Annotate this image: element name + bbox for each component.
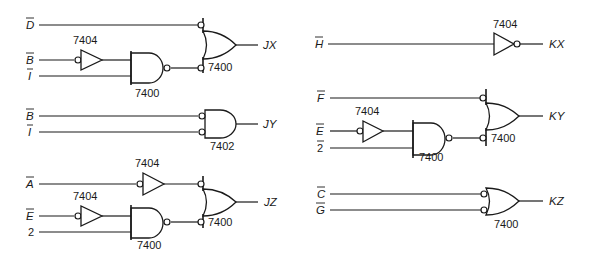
circuit-jx: D B I 7404 7400 — [26, 18, 278, 99]
output-label-ky: KY — [549, 110, 566, 122]
circuit-jz: A E 2 7404 7404 7400 — [25, 157, 278, 251]
input-label-e-bar: E — [26, 209, 34, 222]
svg-text:I: I — [28, 70, 32, 82]
circuit-kx: H 7404 KX — [315, 18, 566, 55]
output-label-jx: JX — [262, 39, 278, 51]
svg-text:7400: 7400 — [208, 216, 232, 228]
input-label-e-bar: E — [316, 124, 324, 137]
svg-text:7400: 7400 — [137, 239, 161, 251]
svg-text:7400: 7400 — [491, 132, 515, 144]
svg-text:I: I — [28, 126, 32, 138]
input-label-d-bar: D — [26, 18, 34, 31]
svg-text:2: 2 — [317, 142, 323, 154]
svg-text:7404: 7404 — [355, 105, 379, 117]
input-label-i-bar: I — [27, 69, 33, 82]
input-label-c-bar: C — [317, 187, 326, 200]
svg-text:G: G — [316, 204, 325, 216]
svg-text:H: H — [315, 38, 324, 50]
svg-text:7404: 7404 — [73, 34, 97, 46]
buffer-7404-e: 7404 — [73, 190, 102, 226]
buffer-7404: 7404 — [355, 105, 383, 142]
input-label-g-bar: G — [316, 203, 325, 216]
nand-gate-7400: 7400 — [131, 51, 170, 99]
or-gate-7400: 7400 — [198, 18, 236, 73]
svg-text:D: D — [26, 19, 34, 31]
input-label-b-bar: B — [26, 109, 34, 122]
input-label-a-bar: A — [25, 177, 34, 190]
svg-text:B: B — [26, 54, 34, 66]
svg-text:7402: 7402 — [210, 140, 234, 152]
or-gate-7400: 7400 — [198, 176, 236, 228]
svg-text:E: E — [26, 210, 34, 222]
circuit-kz: C G 7400 KZ — [316, 187, 565, 230]
buffer-7404: 7404 — [73, 34, 102, 70]
output-label-kx: KX — [549, 38, 566, 50]
input-label-h-bar: H — [315, 37, 324, 50]
input-label-i-bar: I — [27, 125, 33, 138]
inverter-7404: 7404 — [493, 18, 520, 55]
svg-text:C: C — [317, 188, 326, 200]
or-gate-7400: 7400 — [480, 89, 519, 146]
svg-text:7404: 7404 — [73, 190, 97, 202]
svg-text:E: E — [316, 125, 324, 137]
output-label-kz: KZ — [549, 195, 565, 207]
svg-text:7400: 7400 — [494, 218, 518, 230]
circuit-jy: B I 7402 JY — [26, 109, 278, 152]
svg-text:7404: 7404 — [493, 18, 517, 30]
output-label-jz: JZ — [263, 196, 278, 208]
input-label-2-bar: 2 — [317, 141, 324, 154]
input-label-2: 2 — [28, 226, 34, 238]
input-label-f-bar: F — [317, 91, 325, 104]
buffer-7404-a: 7404 — [135, 157, 164, 195]
or-gate-7400: 7400 — [481, 188, 519, 230]
svg-text:7400: 7400 — [208, 61, 232, 73]
nand-gate-7400: 7400 — [131, 205, 170, 251]
output-label-jy: JY — [262, 118, 278, 130]
svg-text:F: F — [317, 92, 325, 104]
logic-diagram: D B I 7404 7400 — [0, 0, 591, 259]
svg-text:7400: 7400 — [135, 87, 159, 99]
nand-gate-7400: 7400 — [413, 120, 452, 163]
and-gate-7402: 7402 — [199, 110, 236, 152]
svg-text:7400: 7400 — [419, 151, 443, 163]
svg-text:A: A — [25, 178, 34, 190]
svg-text:B: B — [26, 110, 34, 122]
circuit-ky: F E 2 7404 7400 — [316, 89, 566, 163]
svg-text:7404: 7404 — [135, 157, 159, 169]
input-label-b-bar: B — [26, 53, 34, 66]
